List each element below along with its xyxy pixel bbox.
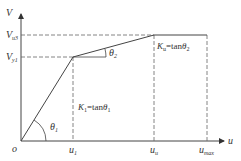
ku-annotation: Ku=tanθ2: [156, 41, 190, 52]
k1-annotation: K1=tanθ1: [77, 102, 111, 113]
y-axis-label: V: [6, 7, 14, 18]
x-axis-label: u: [228, 135, 233, 146]
umax-label: umax: [199, 144, 214, 156]
theta1-label: θ1: [50, 121, 58, 133]
force-displacement-diagram: V u o Vu3 Vy1 u1 uu umax θ1 θ2 K1=tanθ1 …: [0, 0, 241, 161]
theta2-label: θ2: [109, 47, 117, 59]
u1-label: u1: [69, 144, 77, 156]
theta1-arc: [34, 120, 46, 141]
theta2-arc: [105, 49, 106, 57]
origin-label: o: [12, 143, 17, 154]
vy1-label: Vy1: [6, 51, 18, 63]
uu-label: uu: [150, 144, 158, 156]
vu3-label: Vu3: [6, 29, 18, 41]
